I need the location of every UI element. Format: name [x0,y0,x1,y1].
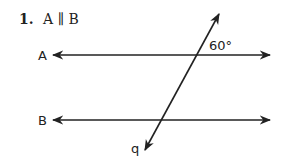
transversal-label: q [131,141,139,156]
transversal-q [145,14,219,150]
line-a-label: A [38,48,47,63]
parallel-lines-diagram: A B q 60° [0,0,282,157]
line-b-label: B [38,113,47,128]
angle-label: 60° [209,38,232,53]
problem-page: 1. A ∥ B A B q 60° [0,0,282,157]
